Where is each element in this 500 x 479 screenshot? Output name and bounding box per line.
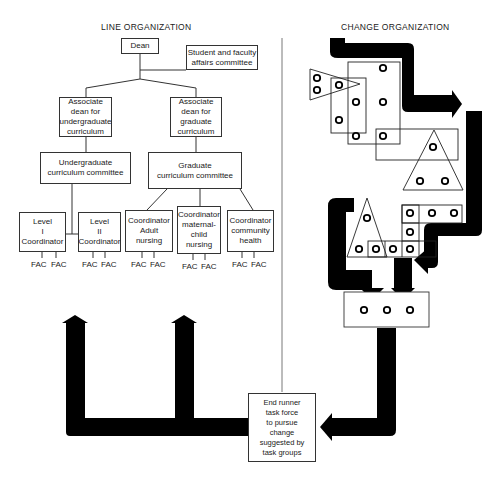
coordinator-adult-nursing: Coordinator Adult nursing [125,210,173,252]
coordinator-level-1: Level I Coordinator [19,212,66,252]
fac-label: FAC [150,260,166,269]
fac-label: FAC [232,260,248,269]
end-runner-task-force-box: End runner task force to pursue change s… [248,393,316,462]
undergrad-committee-box: Undergraduate curriculum committee [40,152,131,184]
assoc-dean-undergrad-box: Associate dean for undergraduate curricu… [59,97,112,137]
grad-committee-box: Graduate curriculum committee [148,152,242,189]
fac-label: FAC [101,260,117,269]
student-faculty-committee-box: Student and faculty affairs committee [186,45,258,70]
arrow-up-head-left [62,315,88,323]
feedback-arrows [62,315,248,436]
change-organization-title: CHANGE ORGANIZATION [341,22,450,32]
dean-box: Dean [121,38,159,54]
fac-label: FAC [182,262,198,271]
coordinator-community-health: Coordinator community health [227,210,274,252]
task-group-rect-3 [376,129,458,160]
fac-label: FAC [201,262,217,271]
fac-label: FAC [131,260,147,269]
coordinator-maternal-child: Coordinator maternal- child nursing [177,206,221,254]
fac-label: FAC [51,260,67,269]
assoc-dean-grad-box: Associate dean for graduate curriculum [170,97,222,137]
line-organization-title: LINE ORGANIZATION [101,22,191,32]
arrow-up-head-right [171,315,197,323]
result-to-end-runner-arrow [320,328,396,441]
coordinator-level-2: Level II Coordinator [78,212,121,252]
fac-label: FAC [251,260,267,269]
fac-label: FAC [31,260,47,269]
change-flow-arrows [328,38,482,300]
fac-label: FAC [82,260,98,269]
